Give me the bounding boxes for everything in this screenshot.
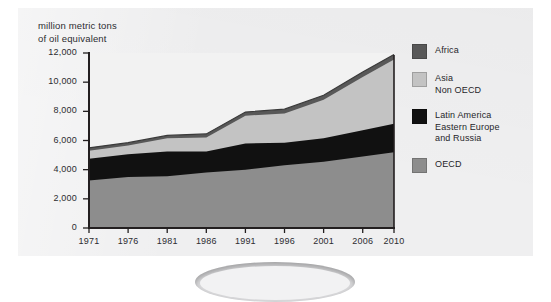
- x-axis-tick-label: 2001: [304, 236, 344, 246]
- x-axis-tick-label: 1986: [186, 236, 226, 246]
- y-axis-tick-label: 0: [31, 222, 77, 232]
- legend-item: Latin America Eastern Europe and Russia: [412, 109, 528, 145]
- legend-swatch-icon: [412, 158, 427, 173]
- x-axis-tick-label: 1996: [265, 236, 305, 246]
- legend-label: Africa: [435, 44, 459, 57]
- y-axis-tick-label: 8,000: [31, 105, 77, 115]
- legend-label: Asia Non OECD: [435, 72, 481, 96]
- x-axis-tick-label: 2010: [374, 236, 414, 246]
- x-axis-tick-label: 1981: [147, 236, 187, 246]
- chart-legend: AfricaAsia Non OECDLatin America Eastern…: [412, 44, 528, 186]
- y-axis-tick-label: 2,000: [31, 193, 77, 203]
- legend-item: OECD: [412, 158, 528, 173]
- legend-item: Asia Non OECD: [412, 72, 528, 96]
- page-fold-oval-inner: [200, 266, 350, 300]
- x-axis-tick-label: 1976: [108, 236, 148, 246]
- y-axis-tick-label: 10,000: [31, 76, 77, 86]
- y-axis-tick-label: 4,000: [31, 164, 77, 174]
- x-axis-tick-label: 1991: [225, 236, 265, 246]
- legend-label: OECD: [435, 158, 462, 171]
- x-axis-tick-label: 1971: [69, 236, 109, 246]
- y-axis-tick-label: 6,000: [31, 135, 77, 145]
- legend-item: Africa: [412, 44, 528, 59]
- legend-label: Latin America Eastern Europe and Russia: [435, 109, 500, 145]
- legend-swatch-icon: [412, 44, 427, 59]
- legend-swatch-icon: [412, 72, 427, 87]
- legend-swatch-icon: [412, 109, 427, 124]
- y-axis-tick-label: 12,000: [31, 47, 77, 57]
